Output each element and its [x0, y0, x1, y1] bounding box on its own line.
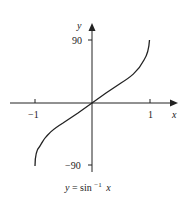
y-axis-arrow-icon: [89, 23, 96, 31]
tick-label-y-neg: −90: [65, 160, 81, 171]
x-axis-arrow-icon: [170, 100, 178, 107]
caption: y = sin −1 x: [64, 178, 111, 193]
caption-x: x: [105, 182, 111, 193]
caption-eq: = sin: [72, 182, 92, 193]
caption-sup: −1: [94, 181, 102, 189]
tick-label-y-pos: 90: [72, 35, 82, 46]
y-axis-label: y: [76, 20, 82, 31]
tick-label-x-pos: 1: [148, 109, 153, 120]
tick-label-x-neg: −1: [28, 109, 39, 120]
caption-y: y: [64, 182, 70, 193]
x-axis-label: x: [171, 109, 177, 120]
chart-canvas: y 90 −90 −1 1 x y = sin −1 x: [0, 0, 188, 206]
